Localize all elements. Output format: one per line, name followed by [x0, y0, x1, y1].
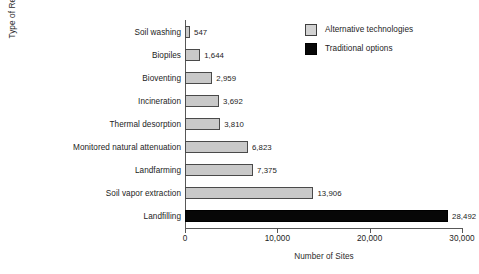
bar: 6,823 — [185, 141, 248, 153]
bar-category-label: Thermal desorption — [110, 119, 181, 128]
x-axis-tick — [277, 228, 278, 233]
bar-row: Landfarming7,375 — [185, 159, 462, 182]
bar-value-label: 28,492 — [452, 212, 476, 221]
legend-swatch-traditional-options — [305, 43, 317, 55]
bar-category-label: Landfilling — [144, 212, 181, 221]
bar-value-label: 2,959 — [216, 73, 236, 82]
x-axis-tick-label: 30,000 — [449, 234, 474, 243]
x-axis-tick — [462, 228, 463, 233]
bar-category-label: Bioventing — [142, 73, 181, 82]
legend-item-alternative-technologies: Alternative technologies — [305, 20, 413, 39]
bar: 28,492 — [185, 210, 448, 222]
bar-value-label: 1,644 — [204, 50, 224, 59]
legend-label-traditional-options: Traditional options — [325, 44, 393, 53]
bar-value-label: 3,810 — [224, 119, 244, 128]
bar-category-label: Incineration — [138, 96, 181, 105]
y-axis-title: Type of Remedy — [8, 0, 22, 88]
bar-value-label: 7,375 — [257, 166, 277, 175]
bar-value-label: 6,823 — [252, 143, 272, 152]
x-axis-tick — [370, 228, 371, 233]
legend-item-traditional-options: Traditional options — [305, 39, 413, 58]
bar-category-label: Soil washing — [134, 27, 181, 36]
bar-value-label: 3,692 — [223, 96, 243, 105]
x-axis-tick — [185, 228, 186, 233]
bar-row: Landfilling28,492 — [185, 205, 462, 228]
bar-row: Soil vapor extraction13,906 — [185, 182, 462, 205]
legend-label-alternative-technologies: Alternative technologies — [325, 25, 413, 34]
bar-row: Bioventing2,959 — [185, 66, 462, 89]
bar-row: Incineration3,692 — [185, 89, 462, 112]
bar: 3,810 — [185, 118, 220, 130]
bar: 7,375 — [185, 164, 253, 176]
bar-category-label: Landfarming — [135, 166, 181, 175]
bar: 1,644 — [185, 49, 200, 61]
bar-category-label: Soil vapor extraction — [106, 189, 181, 198]
bar-category-label: Biopiles — [152, 50, 181, 59]
bar: 547 — [185, 26, 190, 38]
chart-figure: Type of Remedy Soil washing547Biopiles1,… — [0, 0, 479, 274]
bar-category-label: Monitored natural attenuation — [73, 143, 181, 152]
x-axis-tick-label: 10,000 — [265, 234, 290, 243]
bar-row: Thermal desorption3,810 — [185, 112, 462, 135]
x-axis-line — [185, 228, 463, 229]
bar-value-label: 13,906 — [317, 189, 341, 198]
legend-swatch-alternative-technologies — [305, 24, 317, 36]
x-axis-tick-label: 20,000 — [357, 234, 382, 243]
bar: 3,692 — [185, 95, 219, 107]
x-axis-tick-label: 0 — [183, 234, 188, 243]
chart-legend: Alternative technologies Traditional opt… — [305, 20, 413, 58]
bar: 13,906 — [185, 187, 313, 199]
bar-row: Monitored natural attenuation6,823 — [185, 136, 462, 159]
x-axis-title: Number of Sites — [185, 252, 463, 261]
bar: 2,959 — [185, 72, 212, 84]
bar-value-label: 547 — [194, 27, 207, 36]
